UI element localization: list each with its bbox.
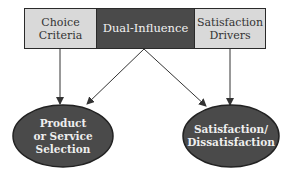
product-selection-label: Productor ServiceSelection [13, 105, 113, 167]
satisfaction-label: Satisfaction/Dissatisfaction [183, 105, 279, 167]
dual-influence-box: Dual-Influence [96, 8, 195, 49]
product-selection-line3: Selection [36, 143, 91, 155]
choice-criteria-line1: Choice [41, 16, 79, 29]
choice-criteria-box: ChoiceCriteria [24, 8, 97, 49]
satisfaction-drivers-line1: Satisfaction [197, 16, 263, 29]
satisfaction-drivers-box: SatisfactionDrivers [194, 8, 266, 49]
dual-influence-label: Dual-Influence [103, 22, 189, 35]
product-selection-line2: or Service [33, 130, 92, 142]
choice-criteria-line2: Criteria [39, 29, 82, 42]
satisfaction-drivers-line2: Drivers [209, 29, 250, 42]
satisfaction-line2: Dissatisfaction [187, 136, 275, 148]
satisfaction-line1: Satisfaction/ [194, 123, 268, 135]
arrow-dual-to-selection [87, 49, 144, 104]
product-selection-line1: Product [40, 117, 87, 129]
arrow-dual-to-satisfaction [144, 49, 206, 106]
